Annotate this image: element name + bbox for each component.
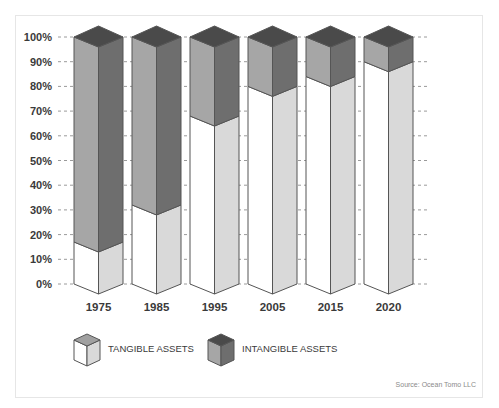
intangible-segment-right: [157, 37, 182, 215]
tangible-segment-left: [248, 86, 273, 294]
y-tick-label: 30%: [30, 204, 52, 216]
y-tick-label: 0%: [36, 278, 52, 290]
y-tick-label: 100%: [24, 31, 52, 43]
tangible-segment-right: [215, 116, 240, 294]
bar-2005: [248, 26, 297, 294]
y-tick-label: 10%: [30, 253, 52, 265]
y-tick-label: 40%: [30, 179, 52, 191]
x-axis-labels: 197519851995200520152020: [86, 301, 402, 313]
x-tick-label: 1975: [86, 301, 112, 313]
tangible-segment-left: [132, 205, 157, 294]
y-tick-label: 70%: [30, 105, 52, 117]
tangible-segment-right: [331, 77, 356, 294]
source-note: Source: Ocean Tomo LLC: [396, 381, 476, 388]
x-tick-label: 2015: [318, 301, 344, 313]
x-tick-label: 1985: [144, 301, 170, 313]
tangible-segment-right: [273, 86, 298, 294]
tangible-segment-left: [190, 116, 215, 294]
tangible-segment-right: [157, 205, 182, 294]
legend-intangible-label: INTANGIBLE ASSETS: [242, 343, 337, 354]
bar-2015: [306, 26, 355, 294]
legend-tangible-label: TANGIBLE ASSETS: [108, 343, 194, 354]
x-tick-label: 2005: [260, 301, 286, 313]
intangible-cube-icon: [208, 334, 234, 366]
stacked-bar-chart: 0%10%20%30%40%50%60%70%80%90%100% 197519…: [0, 0, 499, 408]
y-tick-label: 60%: [30, 130, 52, 142]
x-tick-label: 1995: [202, 301, 228, 313]
tangible-segment-right: [389, 62, 414, 294]
intangible-segment-left: [132, 37, 157, 215]
y-tick-label: 50%: [30, 155, 52, 167]
bar-1985: [132, 26, 181, 294]
intangible-segment-left: [74, 37, 99, 252]
y-axis-labels: 0%10%20%30%40%50%60%70%80%90%100%: [24, 31, 52, 290]
bar-1995: [190, 26, 239, 294]
y-tick-label: 90%: [30, 56, 52, 68]
bar-1975: [74, 26, 123, 294]
tangible-segment-left: [306, 77, 331, 294]
intangible-segment-left: [190, 37, 215, 126]
intangible-segment-right: [99, 37, 124, 252]
x-tick-label: 2020: [376, 301, 402, 313]
y-tick-label: 20%: [30, 229, 52, 241]
y-tick-label: 80%: [30, 80, 52, 92]
bar-2020: [364, 26, 413, 294]
legend: TANGIBLE ASSETS INTANGIBLE ASSETS: [74, 334, 337, 366]
tangible-segment-left: [364, 62, 389, 294]
intangible-segment-right: [215, 37, 240, 126]
tangible-cube-icon: [74, 334, 100, 366]
